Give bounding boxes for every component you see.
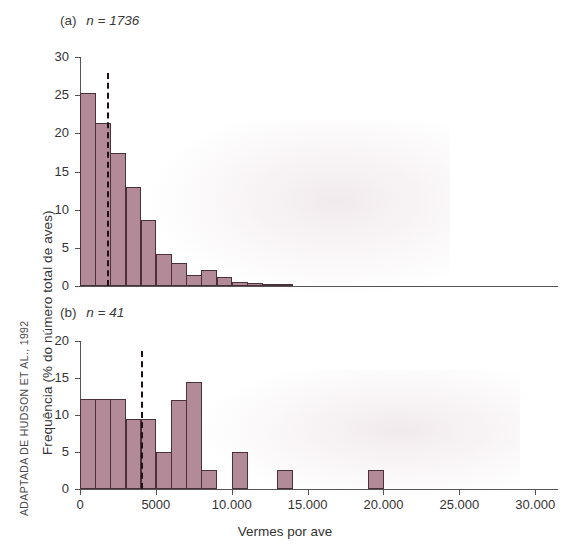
panel-b-title: (b) n = 41 [60,305,124,320]
x-axis-line [80,286,558,287]
histogram-bar [110,399,126,489]
histogram-bar [277,470,293,489]
x-axis-tick [156,490,157,495]
x-axis-tick-label: 0 [40,498,120,511]
histogram-bar [141,419,157,489]
histogram-bar [171,400,187,489]
histogram-bar [201,470,217,489]
panel-a-n-label: n = 1736 [86,13,139,28]
panel-b-tag: (b) [60,305,77,320]
histogram-bar [232,452,248,489]
histogram-bar [368,470,384,489]
panel-b-n-label: n = 41 [86,305,124,320]
x-axis-tick [308,490,309,495]
x-axis-tick [80,490,81,495]
histogram-bar [80,399,96,489]
histogram-bar [80,93,96,286]
mean-dashed-line [141,351,143,489]
y-axis-tick-label: 15 [37,371,69,384]
y-axis-tick [75,378,80,379]
paper-texture-a [150,120,450,295]
x-axis-tick [232,490,233,495]
y-axis-tick-label: 15 [37,165,69,178]
x-axis-tick-label: 25.000 [419,498,499,511]
x-axis-tick [535,490,536,495]
y-axis-tick [75,286,80,287]
y-axis-tick-label: 0 [37,279,69,292]
histogram-bar [201,270,217,286]
x-axis-tick [459,490,460,495]
histogram-bar [232,282,248,286]
panel-a-title: (a) n = 1736 [60,13,139,28]
x-axis-label: Vermes por ave [0,524,570,539]
y-axis-tick-label: 5 [37,241,69,254]
histogram-bar [126,187,142,286]
histogram-bar [156,452,172,489]
y-axis-tick-label: 10 [37,203,69,216]
x-axis-tick-label: 20.000 [343,498,423,511]
histogram-bar [186,382,202,489]
y-axis-tick-label: 10 [37,408,69,421]
x-axis-tick-label: 10.000 [192,498,272,511]
y-axis-tick-label: 0 [37,482,69,495]
histogram-bar [277,284,293,286]
histogram-bar [262,284,278,286]
y-axis-tick-label: 30 [37,50,69,63]
histogram-bar [110,153,126,286]
source-credit-text: ADAPTADA DE HUDSON ET AL., 1992 [18,321,30,516]
histogram-bar [247,283,263,286]
panel-a-tag: (a) [60,13,77,28]
x-axis-tick [383,490,384,495]
y-axis-tick-label: 5 [37,445,69,458]
figure-container: ADAPTADA DE HUDSON ET AL., 1992 Frequênc… [0,0,570,552]
y-axis-tick-label: 25 [37,88,69,101]
y-axis-tick [75,57,80,58]
histogram-bar [186,275,202,286]
y-axis-tick-label: 20 [37,126,69,139]
mean-dashed-line [107,73,109,286]
y-axis-tick-label: 20 [37,334,69,347]
histogram-bar [217,277,233,286]
paper-texture-b [200,370,520,500]
x-axis-line [80,489,558,490]
histogram-bar [156,254,172,286]
histogram-bar [171,263,187,286]
histogram-bar [141,220,157,286]
x-axis-tick-label: 5000 [116,498,196,511]
y-axis-tick [75,341,80,342]
histogram-bar [126,419,142,489]
histogram-bar [95,399,111,489]
x-axis-tick-label: 15.000 [268,498,348,511]
x-axis-tick-label: 30.000 [495,498,570,511]
